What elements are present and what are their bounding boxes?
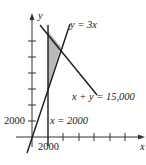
label-x-equals-2000: x = 2000 [49, 115, 89, 126]
feasible-region [48, 31, 61, 89]
y-tick-label-2000: 2000 [4, 115, 25, 126]
x-axis-label: x [139, 141, 145, 152]
y-axis-arrow-icon [30, 13, 35, 20]
label-y-equals-3x: y = 3x [69, 19, 97, 30]
y-axis-label: y [37, 10, 43, 21]
label-x-plus-y-15000: x + y = 15,000 [71, 91, 136, 102]
feasible-region-graph: y x y = 3x x + y = 15,000 x = 2000 2000 … [0, 0, 146, 165]
x-tick-label-2000: 2000 [38, 141, 59, 152]
x-axis-arrow-icon [138, 135, 145, 140]
